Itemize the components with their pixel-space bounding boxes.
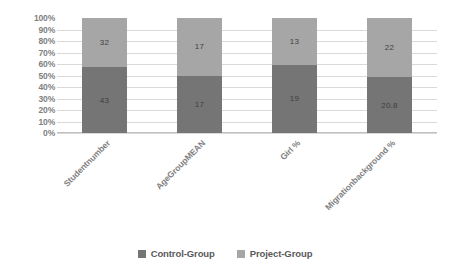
y-axis-tick-label: 50% (5, 71, 55, 80)
legend-swatch-icon (237, 250, 245, 258)
bar-segment-control-group[interactable]: 19 (272, 65, 317, 133)
legend-label: Control-Group (151, 248, 215, 259)
y-axis-tick-label: 60% (5, 60, 55, 69)
y-axis-tick-label: 30% (5, 94, 55, 103)
y-axis-tick-label: 90% (5, 25, 55, 34)
bar-segment-project-group[interactable]: 13 (272, 18, 317, 65)
y-axis-tick-label: 0% (5, 129, 55, 138)
bar-segment-project-group[interactable]: 32 (82, 18, 127, 67)
bar-data-label: 17 (195, 42, 204, 51)
bar-data-label: 13 (290, 37, 299, 46)
plot-area: 3243171713192220.8 (57, 18, 437, 133)
chart-legend: Control-GroupProject-Group (0, 248, 450, 259)
y-axis-tick-label: 70% (5, 48, 55, 57)
stacked-bar[interactable]: 2220.8 (367, 18, 412, 133)
legend-item[interactable]: Control-Group (138, 248, 215, 259)
bar-segment-control-group[interactable]: 17 (177, 76, 222, 134)
y-axis-tick-label: 10% (5, 117, 55, 126)
bar-segment-project-group[interactable]: 22 (367, 18, 412, 77)
bar-segment-control-group[interactable]: 43 (82, 67, 127, 133)
bar-segment-control-group[interactable]: 20.8 (367, 77, 412, 133)
stacked-bar-chart: 0%10%20%30%40%50%60%70%80%90%100% 324317… (0, 0, 450, 272)
bar-data-label: 32 (100, 38, 109, 47)
x-axis-category-labels: StudentnumberAgeGroupMEANGirl %Migration… (57, 136, 437, 231)
y-axis: 0%10%20%30%40%50%60%70%80%90%100% (0, 18, 55, 133)
x-axis-category-label: Studentnumber (61, 138, 112, 189)
legend-label: Project-Group (250, 248, 313, 259)
legend-swatch-icon (138, 250, 146, 258)
stacked-bar[interactable]: 1717 (177, 18, 222, 133)
y-axis-tick-label: 40% (5, 83, 55, 92)
gridline (57, 133, 437, 134)
bar-data-label: 20.8 (381, 101, 397, 110)
x-axis-category-label: Girl % (278, 138, 302, 162)
y-axis-tick-label: 20% (5, 106, 55, 115)
bar-data-label: 22 (385, 43, 394, 52)
x-axis-category-label: Migrationbackground % (323, 138, 397, 212)
y-axis-tick-label: 80% (5, 37, 55, 46)
stacked-bar[interactable]: 1319 (272, 18, 317, 133)
bar-data-label: 19 (290, 94, 299, 103)
bar-data-label: 17 (195, 100, 204, 109)
bar-data-label: 43 (100, 96, 109, 105)
legend-item[interactable]: Project-Group (237, 248, 313, 259)
bar-segment-project-group[interactable]: 17 (177, 18, 222, 76)
stacked-bar[interactable]: 3243 (82, 18, 127, 133)
y-axis-tick-label: 100% (5, 14, 55, 23)
x-axis-category-label: AgeGroupMEAN (153, 138, 206, 191)
